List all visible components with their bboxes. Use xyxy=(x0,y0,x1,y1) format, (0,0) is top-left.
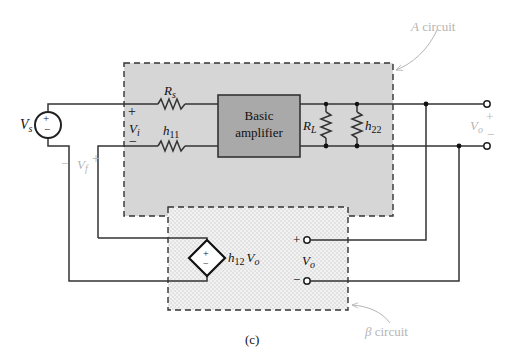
beta-terminal-minus xyxy=(304,278,310,284)
dep-source-minus: − xyxy=(203,259,209,269)
vo-output-label: Vo xyxy=(470,119,483,135)
vi-plus: + xyxy=(128,105,136,119)
rs-label: Rs xyxy=(164,84,176,100)
output-terminal-bottom xyxy=(484,143,490,149)
h22-label: h22 xyxy=(365,119,382,135)
a-circuit-arrow xyxy=(396,30,437,70)
beta-circuit-arrow xyxy=(352,305,390,323)
beta-vo-plus: + xyxy=(293,233,300,246)
circuit-diagram xyxy=(0,0,514,364)
beta-circuit-label: β circuit xyxy=(365,325,408,338)
vo-output-plus: + xyxy=(486,110,493,123)
beta-vo-label: Vo xyxy=(302,254,315,270)
h11-label: h11 xyxy=(163,124,179,140)
vo-output-minus: − xyxy=(487,128,494,141)
vf-minus: − xyxy=(61,157,68,170)
figure-caption: (c) xyxy=(245,333,259,346)
vi-minus: − xyxy=(129,135,137,149)
beta-vo-minus: − xyxy=(293,273,300,286)
vf-label: Vf xyxy=(77,158,88,174)
beta-terminal-plus xyxy=(304,237,310,243)
basic-amplifier-label: Basicamplifier xyxy=(218,107,300,141)
dep-source-label: h12Vo xyxy=(228,251,259,267)
output-terminal-top xyxy=(484,101,490,107)
vs-minus: − xyxy=(44,124,50,135)
a-circuit-label: A circuit xyxy=(411,20,455,33)
rl-label: RL xyxy=(303,119,317,135)
vf-plus: + xyxy=(92,152,100,166)
vs-label: Vs xyxy=(20,118,32,134)
